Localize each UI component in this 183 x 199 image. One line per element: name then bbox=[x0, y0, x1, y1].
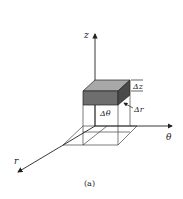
delta-theta-label: Δθ bbox=[99, 109, 111, 118]
front-face bbox=[83, 91, 118, 105]
figure-caption: (a) bbox=[84, 179, 95, 188]
volume-element bbox=[83, 80, 130, 105]
r-axis-label: r bbox=[14, 156, 19, 166]
z-axis-label: z bbox=[83, 30, 89, 40]
floor-grid bbox=[63, 126, 137, 145]
r-axis bbox=[18, 126, 95, 172]
theta-axis-label: θ bbox=[166, 132, 172, 142]
cylindrical-element-diagram: z θ r Δz Δr Δθ (a) bbox=[0, 0, 183, 199]
delta-r-label: Δr bbox=[133, 105, 145, 114]
delta-z-label: Δz bbox=[132, 82, 144, 91]
